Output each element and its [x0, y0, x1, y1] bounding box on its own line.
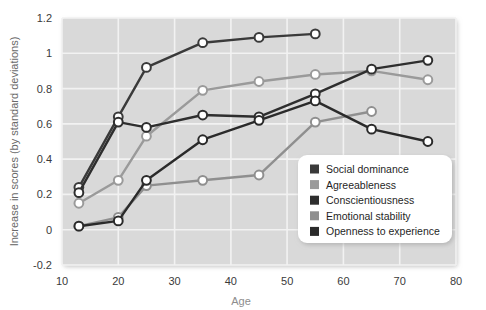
data-point-marker[interactable] — [142, 176, 151, 185]
legend-swatch — [310, 196, 319, 205]
y-axis-title: Increase in scores (by standard deviatio… — [8, 37, 20, 247]
legend-label: Emotional stability — [326, 210, 411, 222]
data-point-marker[interactable] — [74, 188, 83, 197]
x-axis-tick-label: 70 — [394, 275, 406, 287]
data-point-marker[interactable] — [198, 86, 207, 95]
data-point-marker[interactable] — [255, 33, 264, 42]
chart-container: -0.200.20.40.60.811.21020304050607080Inc… — [0, 0, 486, 310]
data-point-marker[interactable] — [423, 75, 432, 84]
data-point-marker[interactable] — [255, 77, 264, 86]
legend-swatch — [310, 211, 319, 220]
data-point-marker[interactable] — [423, 56, 432, 65]
x-axis-tick-label: 60 — [337, 275, 349, 287]
data-point-marker[interactable] — [423, 137, 432, 146]
y-axis-tick-label: 0.4 — [37, 153, 52, 165]
data-point-marker[interactable] — [142, 63, 151, 72]
legend-label: Conscientiousness — [326, 194, 414, 206]
y-axis-tick-label: 0.6 — [37, 118, 52, 130]
x-axis-tick-label: 80 — [450, 275, 462, 287]
x-axis-tick-label: 30 — [168, 275, 180, 287]
data-point-marker[interactable] — [311, 97, 320, 106]
data-point-marker[interactable] — [74, 222, 83, 231]
x-axis-title: Age — [231, 295, 251, 307]
data-point-marker[interactable] — [198, 38, 207, 47]
y-axis-ticks: -0.200.20.40.60.811.2 — [33, 12, 52, 271]
x-axis-tick-label: 20 — [112, 275, 124, 287]
legend-label: Agreeableness — [326, 179, 396, 191]
data-point-marker[interactable] — [311, 29, 320, 38]
legend: Social dominanceAgreeablenessConscientio… — [298, 155, 452, 243]
data-point-marker[interactable] — [311, 70, 320, 79]
data-point-marker[interactable] — [114, 216, 123, 225]
data-point-marker[interactable] — [198, 135, 207, 144]
y-axis-tick-label: 0.8 — [37, 83, 52, 95]
legend-label: Social dominance — [326, 163, 409, 175]
y-axis-tick-label: 1 — [46, 47, 52, 59]
data-point-marker[interactable] — [198, 111, 207, 120]
y-axis-tick-label: 0 — [46, 224, 52, 236]
y-axis-tick-label: 1.2 — [37, 12, 52, 24]
x-axis-tick-label: 40 — [225, 275, 237, 287]
legend-swatch — [310, 165, 319, 174]
data-point-marker[interactable] — [142, 123, 151, 132]
data-point-marker[interactable] — [367, 65, 376, 74]
data-point-marker[interactable] — [311, 118, 320, 127]
data-point-marker[interactable] — [198, 176, 207, 185]
data-point-marker[interactable] — [114, 176, 123, 185]
x-axis-tick-label: 10 — [56, 275, 68, 287]
legend-swatch — [310, 227, 319, 236]
x-axis-ticks: 1020304050607080 — [56, 275, 462, 287]
data-point-marker[interactable] — [367, 107, 376, 116]
data-point-marker[interactable] — [74, 199, 83, 208]
data-point-marker[interactable] — [255, 116, 264, 125]
legend-label: Openness to experience — [326, 225, 440, 237]
y-axis-tick-label: 0.2 — [37, 188, 52, 200]
x-axis-tick-label: 50 — [281, 275, 293, 287]
legend-swatch — [310, 180, 319, 189]
line-chart: -0.200.20.40.60.811.21020304050607080Inc… — [0, 0, 486, 310]
y-axis-tick-label: -0.2 — [33, 259, 52, 271]
data-point-marker[interactable] — [142, 132, 151, 141]
data-point-marker[interactable] — [367, 125, 376, 134]
data-point-marker[interactable] — [114, 118, 123, 127]
data-point-marker[interactable] — [255, 171, 264, 180]
